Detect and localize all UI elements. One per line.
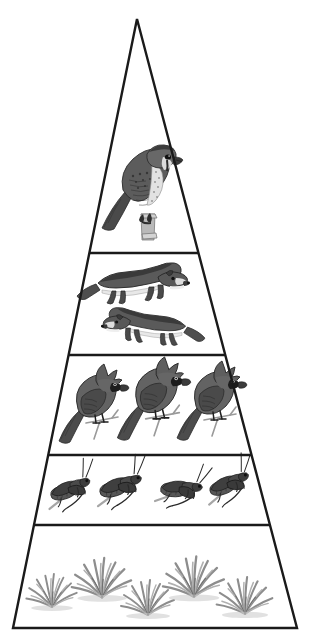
pyramid-canvas	[0, 0, 310, 641]
energy-pyramid-diagram: Energy Pyramid	[0, 0, 310, 641]
